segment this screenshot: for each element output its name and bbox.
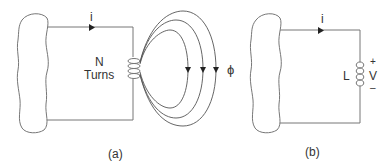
voltage-label: V bbox=[369, 70, 377, 82]
inductor-label: L bbox=[343, 70, 350, 82]
current-label-b: i bbox=[321, 13, 324, 25]
flux-arrow-3 bbox=[213, 67, 219, 73]
flux-label: ϕ bbox=[227, 63, 234, 76]
bottom-wire-b bbox=[280, 89, 360, 123]
caption-b: (b) bbox=[305, 146, 320, 158]
current-label-a: i bbox=[90, 11, 93, 23]
turns-label-text: Turns bbox=[84, 69, 114, 81]
top-wire-b bbox=[280, 30, 360, 62]
plus-label: + bbox=[370, 57, 376, 67]
coil-a bbox=[128, 59, 140, 79]
figure-a-circuit bbox=[17, 11, 219, 133]
minus-label: – bbox=[370, 83, 376, 93]
turns-label-n: N bbox=[95, 56, 104, 68]
flux-arrow-1 bbox=[185, 67, 191, 73]
flux-arrow-2 bbox=[200, 67, 206, 73]
current-arrow-b bbox=[318, 27, 324, 34]
bottom-wire-a bbox=[47, 79, 133, 120]
source-blob-b bbox=[250, 14, 281, 133]
coil-b bbox=[356, 62, 364, 89]
inductor-diagram: i N Turns ϕ (a) i L + V – (b) bbox=[0, 0, 389, 167]
caption-a: (a) bbox=[108, 148, 123, 160]
top-wire-a bbox=[47, 27, 133, 57]
current-arrow-a bbox=[89, 24, 95, 31]
source-blob-a bbox=[17, 14, 48, 133]
diagram-graphics bbox=[0, 0, 389, 167]
